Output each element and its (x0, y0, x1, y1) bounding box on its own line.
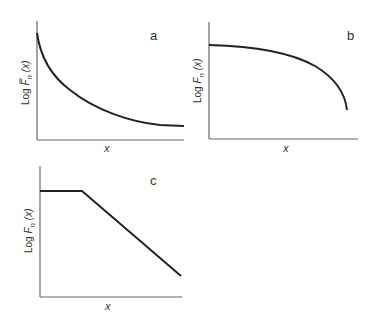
curve-c (40, 191, 181, 276)
panel-c: c x Log Fn (x) (23, 166, 182, 312)
x-axis-label-c: x (104, 300, 111, 312)
panel-label-b: b (347, 28, 354, 43)
figure-canvas: a x Log Fn (x) b x Log Fn (x) c x Log Fn… (0, 0, 373, 325)
panel-label-a: a (150, 28, 158, 43)
y-axis-label-c: Log Fn (x) (23, 209, 37, 253)
x-axis-label-a: x (103, 142, 110, 154)
x-axis-label-b: x (282, 142, 289, 154)
panel-label-c: c (150, 173, 157, 188)
y-axis-label-b: Log Fn (x) (192, 59, 206, 103)
y-axis-label-a: Log Fn (x) (20, 61, 34, 105)
curve-a (37, 33, 184, 126)
panel-b: b x Log Fn (x) (192, 22, 358, 154)
curve-b (209, 45, 347, 110)
panel-a: a x Log Fn (x) (20, 21, 184, 154)
